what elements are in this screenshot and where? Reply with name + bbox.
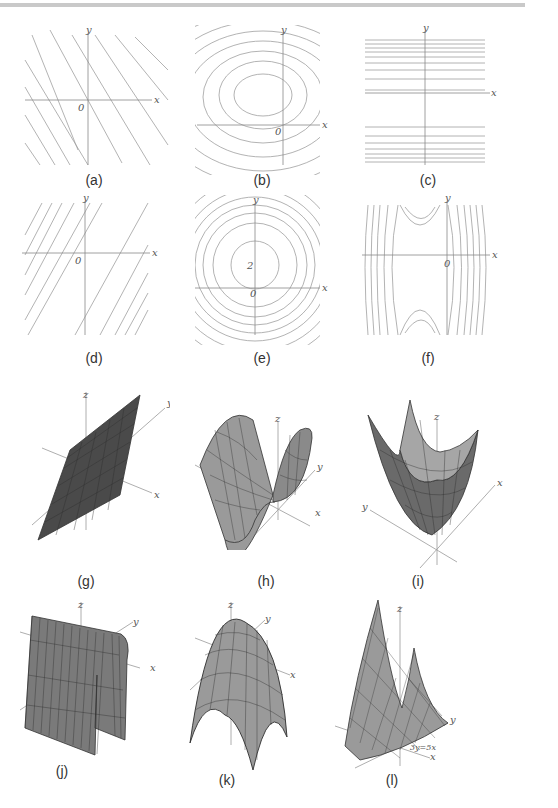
caption-b: (b) [242,172,282,188]
panel-l: x y z 3y=5x [330,598,490,773]
y-axis-label: y [264,613,271,624]
caption-h: (h) [246,573,286,589]
panel-b: x y 0 [195,25,345,175]
y-axis-label: y [422,25,429,33]
x-axis-label: x [492,249,498,260]
z-axis-label: z [77,600,84,610]
panel-g: x y z [20,390,170,550]
surface-plot-i: x y z [360,390,510,570]
caption-i: (i) [398,573,438,589]
y-axis-label: y [444,195,451,203]
y-axis-label: y [132,616,139,627]
caption-k: (k) [207,772,247,788]
y-axis-label: y [316,461,323,472]
panel-k: x y z [185,600,335,775]
caption-e: (e) [242,350,282,366]
z-axis-label: z [433,411,440,422]
panel-h: x y z [195,390,345,550]
y-axis-label: y [85,25,92,35]
panel-e: x y 0 2 [195,195,345,345]
x-axis-label: x [315,507,321,518]
page-top-rule [0,3,525,7]
x-axis-label: x [430,751,436,762]
x-axis-label: x [322,282,328,293]
contour-plot-a: x y 0 [20,25,170,175]
origin-label: 0 [444,258,451,269]
surface-plot-l: x y z 3y=5x [330,598,490,773]
surface-plot-j: x y z [15,600,165,770]
y-axis-label: y [82,195,89,203]
x-axis-label: x [322,119,328,130]
line-annotation: 3y=5x [410,743,436,752]
x-axis-label: x [154,489,160,500]
x-axis-label: x [150,662,156,673]
y-axis-label: y [280,25,287,35]
z-axis-label: z [227,600,234,610]
contour-plot-b: x y 0 [195,25,345,175]
y-axis-label: y [252,195,259,205]
surface-plot-k: x y z [185,600,335,775]
caption-g: (g) [66,573,106,589]
x-axis-label: x [154,94,160,105]
y-axis-label: y [361,501,368,512]
surface-plot-g: x y z [20,390,170,550]
contour-plot-f: x y 0 [360,195,510,345]
x-axis-label: x [290,669,296,680]
z-axis-label: z [396,603,403,614]
contour-plot-e: x y 0 2 [195,195,345,345]
contour-plot-d: x y 0 [20,195,170,345]
z-axis-label: z [274,413,281,424]
caption-j: (j) [42,763,82,779]
surface-plot-h: x y z [195,390,345,550]
origin-label: 0 [275,126,282,137]
origin-label: 0 [250,288,257,299]
origin-label: 0 [78,102,85,113]
y-axis-label: y [166,397,170,408]
contour-plot-c: x y [360,25,510,175]
center-label: 2 [246,260,253,271]
x-axis-label: x [497,477,503,488]
caption-f: (f) [408,350,448,366]
panel-c: x y [360,25,510,175]
caption-l: (l) [372,772,412,788]
x-axis-label: x [152,247,158,258]
panel-f: x y 0 [360,195,510,345]
panel-a: x y 0 [20,25,170,175]
z-axis-label: z [82,390,89,400]
panel-d: x y 0 [20,195,170,345]
caption-a: (a) [74,172,114,188]
panel-i: x y z [360,390,510,570]
panel-j: x y z [15,600,165,770]
caption-c: (c) [408,172,448,188]
y-axis-label: y [449,714,456,725]
x-axis-label: x [491,87,497,98]
caption-d: (d) [74,350,114,366]
origin-label: 0 [75,255,82,266]
